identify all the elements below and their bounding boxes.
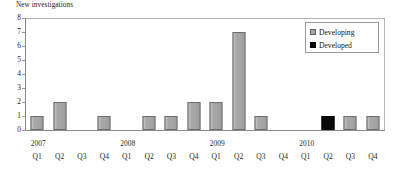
legend-swatch-developed-icon	[310, 42, 316, 48]
x-tick-label-quarter: Q4	[362, 152, 384, 161]
bar-group	[48, 18, 70, 130]
bar-developing-2007-Q4	[98, 116, 111, 130]
x-tick-label-quarter: Q3	[250, 152, 272, 161]
bar-group	[71, 18, 93, 130]
y-tick-label: 2	[17, 98, 21, 106]
x-axis-line	[25, 130, 385, 131]
y-tick-mark	[22, 32, 25, 33]
y-tick-mark	[22, 88, 25, 89]
bar-group	[272, 18, 294, 130]
bar-group	[160, 18, 182, 130]
bar-developing-2008-Q4	[187, 102, 200, 130]
legend-item-developed: Developed	[310, 39, 378, 51]
y-axis-ticks: 876543210	[0, 18, 25, 131]
bar-group	[205, 18, 227, 130]
bar-developing-2010-Q4	[366, 116, 379, 130]
bar-developing-2007-Q2	[53, 102, 66, 130]
x-tick-label-year: 2009	[206, 139, 228, 148]
y-axis-title: New investigations	[16, 1, 73, 10]
y-tick-label: 8	[17, 14, 21, 22]
bar-developing-2008-Q3	[165, 116, 178, 130]
x-tick-label-year: 2007	[27, 139, 49, 148]
x-tick-label-quarter: Q3	[160, 152, 182, 161]
x-tick-label-quarter: Q2	[317, 152, 339, 161]
bar-group	[250, 18, 272, 130]
bar-chart: New investigations 876543210 Q1Q2Q3Q4Q1Q…	[0, 0, 393, 173]
y-tick-mark	[22, 116, 25, 117]
chart-legend: Developing Developed	[305, 22, 379, 53]
x-tick-label-quarter: Q1	[26, 152, 48, 161]
x-tick-label-quarter: Q2	[48, 152, 70, 161]
x-tick-label-quarter: Q4	[183, 152, 205, 161]
bar-group	[138, 18, 160, 130]
bar-group	[227, 18, 249, 130]
legend-item-developing: Developing	[310, 26, 378, 38]
x-tick-label-quarter: Q3	[339, 152, 361, 161]
legend-swatch-developing-icon	[310, 29, 316, 35]
bar-developing-2009-Q2	[232, 32, 245, 130]
bar-developing-2007-Q1	[31, 116, 44, 130]
y-tick-label: 1	[17, 112, 21, 120]
bar-developed-2010-Q2	[322, 116, 335, 130]
x-tick-label-quarter: Q1	[295, 152, 317, 161]
x-tick-label-quarter: Q4	[272, 152, 294, 161]
bar-developing-2009-Q1	[210, 102, 223, 130]
x-tick-label-quarter: Q2	[138, 152, 160, 161]
x-axis-labels: Q1Q2Q3Q4Q1Q2Q3Q4Q1Q2Q3Q4Q1Q2Q3Q420072008…	[26, 133, 384, 173]
bar-group	[26, 18, 48, 130]
y-tick-mark	[22, 60, 25, 61]
y-tick-label: 0	[17, 126, 21, 134]
x-tick-label-year: 2008	[117, 139, 139, 148]
y-tick-label: 7	[17, 28, 21, 36]
bar-developing-2008-Q2	[143, 116, 156, 130]
y-tick-mark	[22, 102, 25, 103]
y-tick-label: 6	[17, 42, 21, 50]
legend-label-developing: Developing	[319, 28, 354, 37]
bar-group	[93, 18, 115, 130]
x-tick-label-year: 2010	[296, 139, 318, 148]
bar-group	[183, 18, 205, 130]
bar-developing-2010-Q3	[344, 116, 357, 130]
x-tick-label-quarter: Q1	[205, 152, 227, 161]
y-tick-label: 3	[17, 84, 21, 92]
y-tick-label: 5	[17, 56, 21, 64]
bar-developing-2009-Q3	[254, 116, 267, 130]
y-tick-mark	[22, 18, 25, 19]
legend-label-developed: Developed	[319, 41, 352, 50]
x-tick-label-quarter: Q2	[227, 152, 249, 161]
x-tick-label-quarter: Q4	[93, 152, 115, 161]
y-tick-mark	[22, 46, 25, 47]
x-tick-label-quarter: Q3	[71, 152, 93, 161]
y-tick-mark	[22, 74, 25, 75]
y-tick-label: 4	[17, 70, 21, 78]
bar-group	[116, 18, 138, 130]
y-tick-mark	[22, 130, 25, 131]
x-tick-label-quarter: Q1	[116, 152, 138, 161]
